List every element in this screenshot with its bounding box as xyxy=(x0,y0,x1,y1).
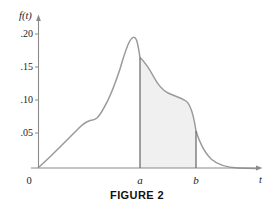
figure-container: .20 .15 .10 .05 f(t) t 0 a b FIGURE 2 xyxy=(0,0,274,215)
origin-label: 0 xyxy=(26,175,31,186)
y-axis-arrowhead xyxy=(36,15,41,22)
shaded-area-region xyxy=(140,58,196,169)
y-axis-label: f(t) xyxy=(19,10,32,22)
tick-label-y-2: .10 xyxy=(21,94,34,105)
x-mark-label-a: a xyxy=(137,174,143,186)
x-mark-label-b: b xyxy=(193,174,199,186)
tick-label-y-0: .20 xyxy=(21,28,34,39)
function-plot: .20 .15 .10 .05 f(t) t 0 a b xyxy=(0,0,274,215)
x-axis-arrowhead xyxy=(256,166,263,171)
tick-label-y-3: .05 xyxy=(21,127,34,138)
figure-caption: FIGURE 2 xyxy=(0,189,274,201)
x-axis-label: t xyxy=(259,174,263,185)
tick-label-y-1: .15 xyxy=(21,61,34,72)
